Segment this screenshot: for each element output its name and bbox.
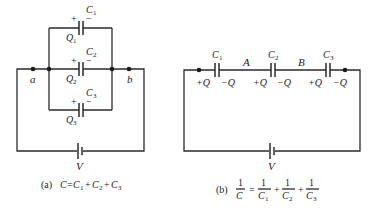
svg-text:+: +	[104, 179, 110, 190]
terminal-left-dot	[197, 68, 202, 73]
svg-text:=: =	[249, 184, 255, 195]
svg-text:1: 1	[93, 9, 97, 17]
terminal-right-dot	[343, 68, 348, 73]
svg-text:2: 2	[73, 78, 77, 86]
capacitor-c2: C 2 +Q −Q	[253, 49, 292, 88]
node-a-label: a	[30, 73, 36, 85]
svg-text:(b): (b)	[216, 184, 228, 196]
svg-text:1: 1	[238, 177, 243, 188]
svg-text:C: C	[268, 49, 275, 60]
svg-text:+: +	[85, 179, 91, 190]
svg-text:C: C	[92, 179, 99, 190]
svg-text:−Q: −Q	[333, 77, 348, 88]
svg-text:C: C	[60, 179, 67, 190]
battery-label: V	[268, 160, 276, 172]
caption-b: (b) 1 C = 1 C 1 + 1 C 2 + 1 C 3	[216, 177, 319, 203]
svg-text:3: 3	[118, 184, 122, 192]
svg-text:2: 2	[93, 51, 97, 59]
svg-text:+Q: +Q	[196, 77, 211, 88]
svg-text:3: 3	[330, 54, 334, 62]
svg-text:+: +	[71, 55, 77, 66]
capacitor-c3: + − C 3 Q 3	[49, 87, 112, 127]
node-B-label: B	[298, 56, 305, 68]
svg-text:3: 3	[313, 195, 317, 203]
svg-text:C: C	[111, 179, 118, 190]
svg-text:1: 1	[219, 54, 223, 62]
capacitor-diagrams: V + − C 1 Q 1 + − C 2 Q 2	[0, 0, 373, 216]
node-a-dot	[31, 67, 36, 72]
caption-a: (a) C = C 1 + C 2 + C 3	[41, 179, 122, 192]
svg-text:C: C	[86, 4, 93, 15]
svg-text:1: 1	[80, 184, 84, 192]
node-b-dot	[127, 67, 132, 72]
svg-text:−Q: −Q	[221, 77, 236, 88]
svg-text:3: 3	[93, 92, 97, 100]
svg-text:C: C	[258, 190, 265, 201]
svg-text:C: C	[212, 49, 219, 60]
junction-right-dot	[110, 67, 115, 72]
svg-text:+Q: +Q	[253, 77, 268, 88]
capacitor-c2: + − C 2 Q 2	[49, 46, 112, 86]
svg-text:1: 1	[261, 177, 266, 188]
capacitor-c3: C 3 +Q −Q	[308, 49, 348, 88]
svg-text:1: 1	[265, 195, 269, 203]
svg-text:+: +	[71, 96, 77, 107]
svg-text:C: C	[86, 87, 93, 98]
capacitor-c1: + − C 1 Q 1	[49, 4, 112, 45]
svg-text:1: 1	[73, 37, 77, 45]
figure-a-parallel-circuit: V + − C 1 Q 1 + − C 2 Q 2	[17, 4, 144, 192]
svg-text:+: +	[71, 13, 77, 24]
svg-text:2: 2	[289, 195, 293, 203]
svg-text:C: C	[236, 190, 243, 201]
svg-text:C: C	[73, 179, 80, 190]
svg-text:2: 2	[99, 184, 103, 192]
svg-text:C: C	[86, 46, 93, 57]
svg-text:(a): (a)	[41, 179, 52, 191]
node-b-label: b	[127, 73, 133, 85]
capacitor-c1: C 1 +Q −Q	[196, 49, 236, 88]
svg-text:−Q: −Q	[277, 77, 292, 88]
svg-text:+Q: +Q	[308, 77, 323, 88]
junction-left-dot	[47, 67, 52, 72]
node-A-label: A	[242, 56, 250, 68]
svg-text:1: 1	[285, 177, 290, 188]
svg-text:+: +	[298, 184, 304, 195]
svg-text:2: 2	[275, 54, 279, 62]
svg-text:1: 1	[309, 177, 314, 188]
svg-text:+: +	[274, 184, 280, 195]
battery-label: V	[76, 160, 84, 172]
figure-b-series-circuit: V C 1 +Q −Q C 2 +Q −Q C 3 +Q −Q	[184, 49, 360, 203]
svg-text:C: C	[323, 49, 330, 60]
svg-text:C: C	[282, 190, 289, 201]
svg-text:C: C	[306, 190, 313, 201]
svg-text:3: 3	[73, 119, 77, 127]
